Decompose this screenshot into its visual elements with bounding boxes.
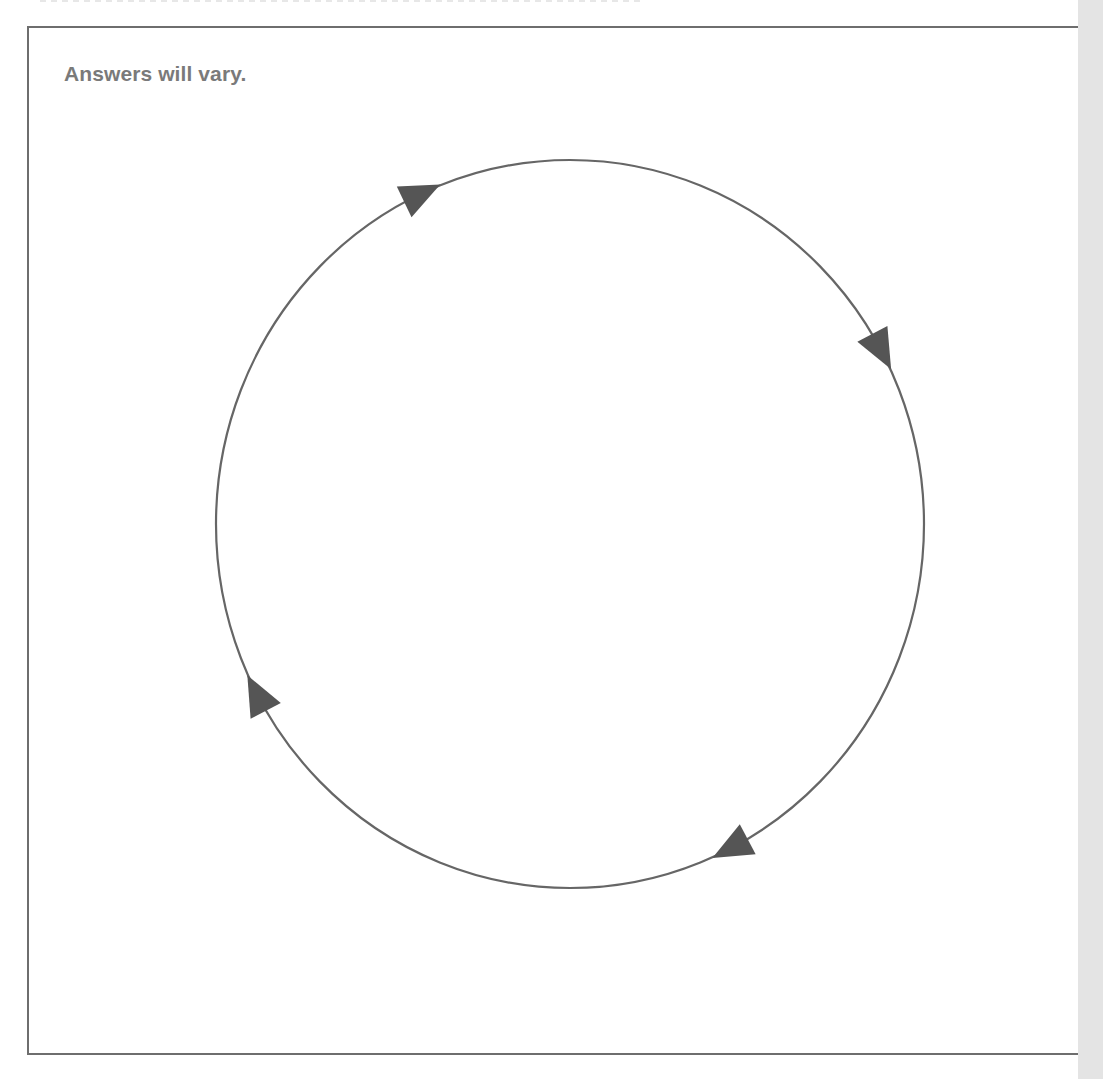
arrowhead-icon (397, 185, 440, 218)
arrowhead-icon (857, 326, 891, 369)
cycle-diagram (0, 0, 1078, 1079)
arrowhead-icon (247, 675, 280, 718)
arrowhead-icon (712, 824, 755, 858)
worksheet-page: Answers will vary. (0, 0, 1078, 1079)
cycle-arrows (247, 185, 891, 858)
cycle-circle (216, 160, 924, 888)
page-margin-strip (1078, 0, 1103, 1079)
